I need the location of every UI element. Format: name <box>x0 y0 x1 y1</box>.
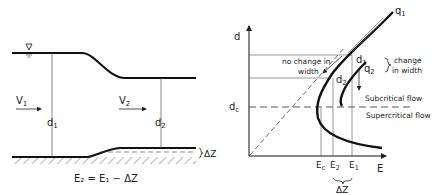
water-surface-symbol-icon <box>26 44 32 50</box>
ec-label: Ec <box>316 160 326 172</box>
specific-energy-diagram: V1 V2 d1 d2 ΔZ E₂ = E₁ − ΔZ d E <box>0 0 441 195</box>
no-change-label-2: width <box>298 67 319 76</box>
subcritical-label: Subcritical flow <box>365 94 422 103</box>
d1-label: d1 <box>47 117 58 130</box>
d2-label: d2 <box>155 117 166 130</box>
change-label-1: change <box>394 56 422 65</box>
d2-curve-label: d2 <box>336 74 347 87</box>
change-brace <box>385 58 391 72</box>
e1-label: E1 <box>349 160 359 172</box>
supercritical-label: Supercritical flow <box>366 111 431 120</box>
channel-bed <box>12 148 196 157</box>
e2-label: E2 <box>330 160 340 172</box>
y-axis-label: d <box>234 31 240 42</box>
x-axis-label: E <box>377 163 383 174</box>
delta-z-brace-axis <box>333 178 352 184</box>
delta-z-axis-label: ΔZ <box>336 185 348 195</box>
delta-z-brace <box>199 148 203 158</box>
change-label-2: in width <box>392 66 422 75</box>
no-change-label-1: no change in <box>282 57 331 66</box>
specific-energy-chart: d E q1 d1 q2 d2 dc no change in w <box>229 5 431 195</box>
curve-q1 <box>317 12 393 148</box>
delta-z-label: ΔZ <box>204 149 216 159</box>
v1-label: V1 <box>16 95 27 108</box>
energy-equation: E₂ = E₁ − ΔZ <box>74 173 138 184</box>
v2-label: V2 <box>119 95 130 108</box>
q2-label: q2 <box>364 63 375 76</box>
water-surface <box>12 53 196 78</box>
bed-hatch <box>12 157 196 164</box>
channel-profile: V1 V2 d1 d2 ΔZ E₂ = E₁ − ΔZ <box>12 44 216 184</box>
q1-label: q1 <box>395 5 406 18</box>
dc-label: dc <box>229 101 239 114</box>
